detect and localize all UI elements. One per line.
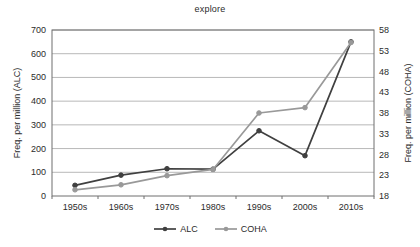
data-point-alc bbox=[303, 153, 308, 158]
data-point-coha bbox=[119, 183, 124, 188]
data-point-coha bbox=[349, 40, 354, 45]
data-point-alc bbox=[257, 128, 262, 133]
data-point-alc bbox=[119, 173, 124, 178]
data-series-layer bbox=[73, 40, 354, 193]
data-point-coha bbox=[165, 173, 170, 178]
data-point-coha bbox=[303, 105, 308, 110]
series-line-alc bbox=[75, 42, 351, 185]
legend-label: ALC bbox=[180, 224, 198, 234]
data-point-coha bbox=[211, 167, 216, 172]
legend-entry-coha: COHA bbox=[214, 224, 267, 234]
plot-area bbox=[0, 0, 420, 247]
data-point-alc bbox=[165, 166, 170, 171]
legend-label: COHA bbox=[241, 224, 267, 234]
legend-marker-icon bbox=[214, 224, 238, 234]
gridlines bbox=[52, 30, 374, 172]
legend-marker-icon bbox=[153, 224, 177, 234]
data-point-coha bbox=[73, 187, 78, 192]
chart-legend: ALCCOHA bbox=[0, 224, 420, 234]
chart-container: explore Freq. per million (ALC) Freq. pe… bbox=[0, 0, 420, 247]
legend-entry-alc: ALC bbox=[153, 224, 198, 234]
data-point-coha bbox=[257, 111, 262, 116]
data-point-alc bbox=[73, 183, 78, 188]
